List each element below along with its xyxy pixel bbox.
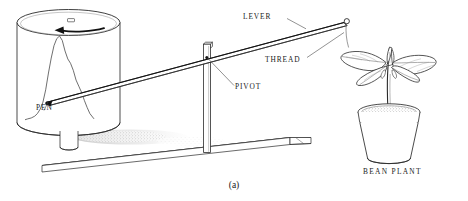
label-thread: THREAD — [265, 56, 300, 63]
rotating-recording-drum[interactable] — [17, 10, 120, 151]
figure-caption: (a) — [0, 180, 468, 190]
bean-plant — [341, 47, 436, 112]
label-bean-plant: BEAN PLANT — [363, 168, 422, 175]
figure-container: LEVER THREAD PIVOT PEN BEAN PLANT (a) — [0, 0, 468, 201]
drum-pedestal — [60, 131, 78, 150]
thread-line — [346, 24, 349, 47]
label-pen: PEN — [36, 104, 53, 111]
flower-pot — [358, 104, 420, 164]
label-lever: LEVER — [243, 13, 271, 20]
leaf-left-upper — [341, 51, 386, 70]
label-pivot: PIVOT — [235, 83, 261, 90]
